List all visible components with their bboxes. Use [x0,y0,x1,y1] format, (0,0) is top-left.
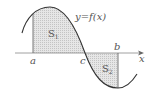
point-label-a: a [30,55,36,66]
point-label-b: b [114,41,120,52]
point-label-c: c [80,55,86,66]
region-label-s2-sub: 2 [109,68,113,75]
function-graph: y=f(x) a c b x S1 S2 [0,0,153,107]
region-label-s1-sub: 1 [55,33,59,40]
axis-label-x: x [139,53,145,64]
curve-label: y=f(x) [74,11,106,22]
